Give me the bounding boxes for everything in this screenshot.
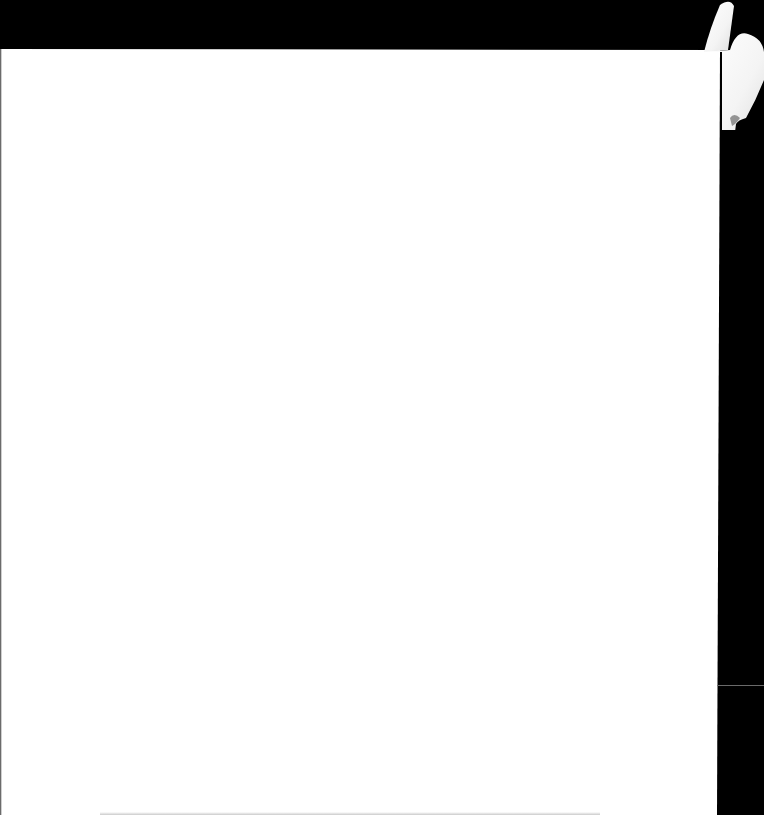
paper-left-edge [0,49,2,815]
hand-icon [690,0,764,130]
photo-scene [0,0,764,815]
background-edge-line [717,685,764,686]
blank-paper-sheet [0,49,720,815]
